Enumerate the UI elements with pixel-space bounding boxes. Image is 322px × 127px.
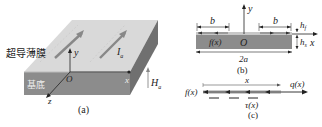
b-axis-x-label: x	[309, 37, 315, 48]
film-label: 超导薄膜	[6, 47, 46, 59]
hs-label: hs	[300, 37, 308, 48]
caption-b: (b)	[237, 65, 248, 75]
caption-c: (c)	[248, 110, 258, 120]
axis-y-label: y	[73, 47, 79, 58]
origin-label: O	[66, 74, 73, 84]
b-axis-y-label: y	[247, 3, 253, 14]
c-qx-label: q(x)	[290, 79, 305, 89]
panel-c: f(x) x q(x) τ(x) (c)	[185, 75, 308, 120]
caption-a: (a)	[78, 104, 89, 116]
b-origin-label: O	[240, 37, 247, 48]
hf-label: hf	[300, 20, 308, 31]
axis-z-label: z	[47, 96, 52, 106]
substrate-label: 基底	[27, 79, 45, 90]
panel-a: 超导薄膜 基底 y O x z Ia Ha (a)	[6, 20, 161, 116]
field-label: Ha	[150, 77, 161, 90]
b-fx-label: f(x)	[209, 37, 222, 47]
c-tau-label: τ(x)	[245, 100, 258, 110]
panel-b: y x O b b hf hs f(x) 2a (b)	[196, 3, 318, 75]
c-fx-label: f(x)	[185, 87, 198, 97]
c-x-label: x	[244, 75, 249, 85]
diagram-canvas: 超导薄膜 基底 y O x z Ia Ha (a)	[0, 0, 322, 127]
b-right-label: b	[273, 15, 278, 26]
axis-x-label: x	[124, 75, 129, 85]
b-left-label: b	[210, 15, 215, 26]
width-label: 2a	[239, 54, 249, 64]
